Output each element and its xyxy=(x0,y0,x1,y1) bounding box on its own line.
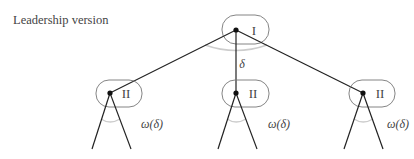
edge-middle-leaf-1 xyxy=(218,93,236,149)
right-child-player-label: II xyxy=(376,86,385,101)
middle-child-arc-label: ω(δ) xyxy=(268,117,290,131)
left-child-node xyxy=(107,90,112,95)
game-tree: I δ II ω(δ) II ω(δ) II ω(δ) xyxy=(0,0,414,159)
middle-child-player-label: II xyxy=(249,86,258,101)
edge-root-left xyxy=(110,30,236,93)
left-child-info-set xyxy=(96,80,142,107)
root-player-label: I xyxy=(252,23,256,38)
edge-right-leaf-1 xyxy=(344,93,363,149)
edge-left-leaf-2 xyxy=(110,93,131,149)
root-arc-label: δ xyxy=(239,57,245,71)
left-child-arc-label: ω(δ) xyxy=(141,117,163,131)
middle-child-angle-arc xyxy=(227,119,246,122)
edge-root-right xyxy=(236,30,363,93)
root-node xyxy=(233,27,238,32)
right-child-arc-label: ω(δ) xyxy=(387,117,409,131)
right-child-info-set xyxy=(349,80,395,107)
edge-left-leaf-1 xyxy=(92,93,110,149)
edge-middle-leaf-2 xyxy=(236,93,257,149)
edge-right-leaf-2 xyxy=(363,93,383,149)
middle-child-info-set xyxy=(222,80,269,107)
left-child-player-label: II xyxy=(122,86,131,101)
middle-child-node xyxy=(233,90,238,95)
left-child-angle-arc xyxy=(101,119,120,122)
right-child-angle-arc xyxy=(354,119,373,122)
right-child-node xyxy=(360,90,365,95)
root-info-set xyxy=(222,15,269,44)
